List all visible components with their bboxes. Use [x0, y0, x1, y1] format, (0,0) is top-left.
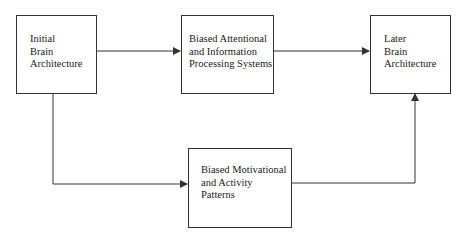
arrow-initial-to-motivation [53, 93, 187, 184]
node-initial-brain-architecture: Initial Brain Architecture [16, 15, 97, 94]
node-label: Biased Attentional and Information Proce… [189, 33, 272, 71]
arrow-motivation-to-later [291, 94, 415, 183]
node-label: Biased Motivational and Activity Pattern… [201, 164, 286, 202]
node-later-brain-architecture: Later Brain Architecture [370, 15, 451, 94]
node-biased-attentional-processing: Biased Attentional and Information Proce… [181, 15, 274, 94]
node-biased-motivational-patterns: Biased Motivational and Activity Pattern… [188, 148, 292, 228]
node-label: Initial Brain Architecture [30, 33, 82, 71]
node-label: Later Brain Architecture [384, 33, 436, 71]
